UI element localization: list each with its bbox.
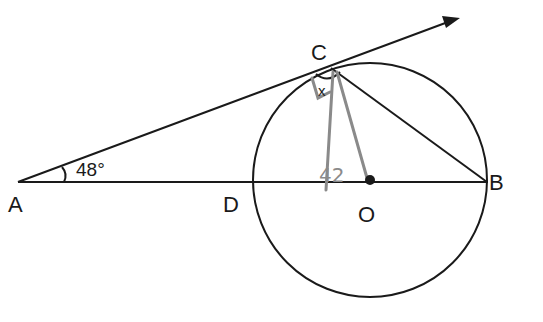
label-C: C (311, 40, 327, 65)
label-A: A (8, 192, 23, 217)
angle-C-variable: x (318, 82, 326, 99)
label-O: O (358, 202, 375, 227)
angle-A-value: 48° (76, 159, 105, 180)
label-D: D (223, 192, 239, 217)
label-B: B (489, 170, 504, 195)
chord-CB (331, 68, 487, 182)
tangent-line-AC (18, 22, 448, 182)
geometry-diagram: A B C D O 48° x 42 (0, 0, 543, 322)
angle-arc-A (62, 167, 66, 182)
pencil-angle-42: 42 (319, 163, 344, 187)
center-point-O (365, 175, 375, 185)
arrowhead-icon (442, 16, 460, 28)
